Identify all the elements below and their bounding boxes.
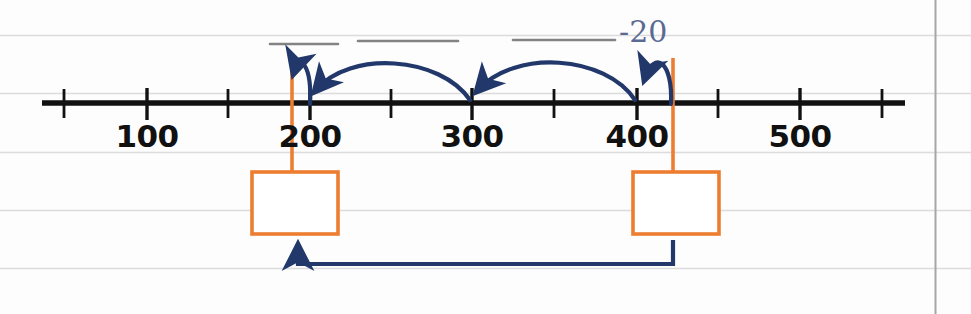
jump-arc-2 [316, 63, 470, 100]
worksheet-canvas: 100 200 300 400 500 -20 [0, 0, 971, 314]
blank-answer-lines [270, 40, 615, 44]
answer-boxes[interactable] [252, 172, 719, 234]
answer-box-right [633, 172, 719, 234]
jump-arc-4 [645, 62, 671, 104]
jump-arcs [294, 62, 671, 104]
tick-label-100: 100 [115, 118, 178, 154]
highlight-verticals [292, 58, 673, 174]
tick-label-400: 400 [605, 118, 668, 154]
jump-arc-3 [478, 62, 635, 100]
tick-label-500: 500 [768, 118, 831, 154]
jump-value-label: -20 [619, 14, 667, 49]
answer-box-left [252, 172, 338, 234]
tick-label-300: 300 [440, 118, 503, 154]
jump-arc-1 [294, 63, 310, 104]
answer-connector-arrow [298, 240, 673, 264]
tick-label-200: 200 [278, 118, 341, 154]
